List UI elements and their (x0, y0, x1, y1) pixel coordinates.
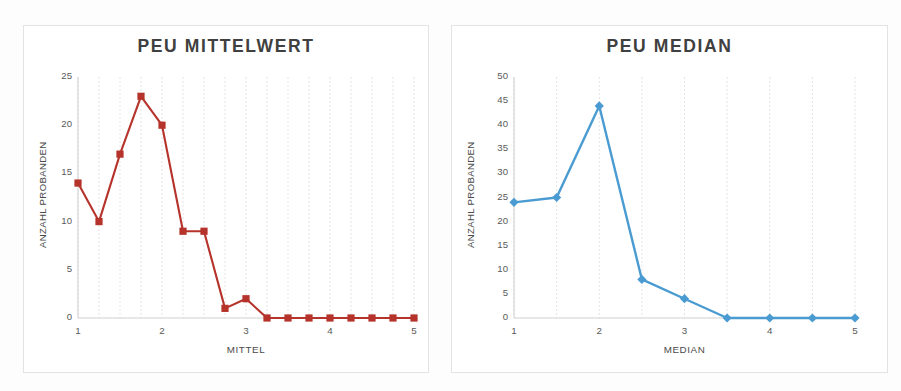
data-point-marker (637, 275, 646, 284)
y-axis-tick-label: 25 (482, 191, 508, 202)
data-point-marker (137, 93, 144, 100)
data-point-marker (263, 314, 270, 321)
y-axis-tick-label: 20 (46, 118, 72, 129)
data-point-marker (723, 313, 732, 322)
y-axis-tick-label: 50 (482, 70, 508, 81)
y-axis-tick-label: 0 (482, 311, 508, 322)
y-axis-title: ANZAHL PROBANDEN (465, 141, 476, 248)
x-axis-tick-label: 5 (399, 325, 429, 336)
x-axis-title: MEDIAN (514, 344, 855, 355)
x-axis-tick-label: 4 (755, 325, 785, 336)
data-point-marker (221, 305, 228, 312)
data-point-marker (765, 313, 774, 322)
y-axis-tick-label: 45 (482, 94, 508, 105)
data-point-marker (200, 228, 207, 235)
y-axis-tick-label: 15 (46, 166, 72, 177)
x-axis-tick-label: 1 (499, 325, 529, 336)
chart-panel-peu-mittelwert: PEU MITTELWERT 051015202512345MITTELANZA… (23, 25, 429, 373)
data-point-marker (552, 193, 561, 202)
chart-svg-peu-median (452, 26, 887, 372)
x-axis-tick-label: 4 (315, 325, 345, 336)
data-point-marker (305, 314, 312, 321)
x-axis-tick-label: 3 (670, 325, 700, 336)
y-axis-title: ANZAHL PROBANDEN (37, 141, 48, 248)
data-point-marker (242, 295, 249, 302)
chart-svg-peu-mittelwert (24, 26, 428, 372)
data-point-marker (389, 314, 396, 321)
x-axis-tick-label: 5 (840, 325, 870, 336)
y-axis-tick-label: 30 (482, 166, 508, 177)
data-point-marker (368, 314, 375, 321)
y-axis-tick-label: 15 (482, 239, 508, 250)
data-point-marker (284, 314, 291, 321)
data-point-marker (158, 122, 165, 129)
data-point-marker (509, 198, 518, 207)
y-axis-tick-label: 40 (482, 118, 508, 129)
data-point-marker (116, 151, 123, 158)
y-axis-tick-label: 20 (482, 215, 508, 226)
y-axis-tick-label: 25 (46, 70, 72, 81)
data-point-marker (179, 228, 186, 235)
y-axis-tick-label: 10 (482, 263, 508, 274)
data-point-marker (95, 218, 102, 225)
data-point-marker (850, 313, 859, 322)
chart-panel-peu-median: PEU MEDIAN 0510152025303540455012345MEDI… (451, 25, 888, 373)
data-point-marker (680, 294, 689, 303)
data-point-marker (347, 314, 354, 321)
plot-area-right: 0510152025303540455012345MEDIANANZAHL PR… (452, 26, 887, 372)
data-point-marker (808, 313, 817, 322)
data-point-marker (595, 101, 604, 110)
y-axis-tick-label: 0 (46, 311, 72, 322)
data-point-marker (74, 179, 81, 186)
y-axis-tick-label: 5 (46, 263, 72, 274)
x-axis-title: MITTEL (78, 344, 414, 355)
y-axis-tick-label: 5 (482, 287, 508, 298)
x-axis-tick-label: 2 (147, 325, 177, 336)
x-axis-tick-label: 2 (584, 325, 614, 336)
data-point-marker (326, 314, 333, 321)
x-axis-tick-label: 3 (231, 325, 261, 336)
plot-area-left: 051015202512345MITTELANZAHL PROBANDEN (24, 26, 428, 372)
y-axis-tick-label: 35 (482, 142, 508, 153)
figure-container: PEU MITTELWERT 051015202512345MITTELANZA… (0, 0, 901, 391)
x-axis-tick-label: 1 (63, 325, 93, 336)
y-axis-tick-label: 10 (46, 215, 72, 226)
data-point-marker (410, 314, 417, 321)
